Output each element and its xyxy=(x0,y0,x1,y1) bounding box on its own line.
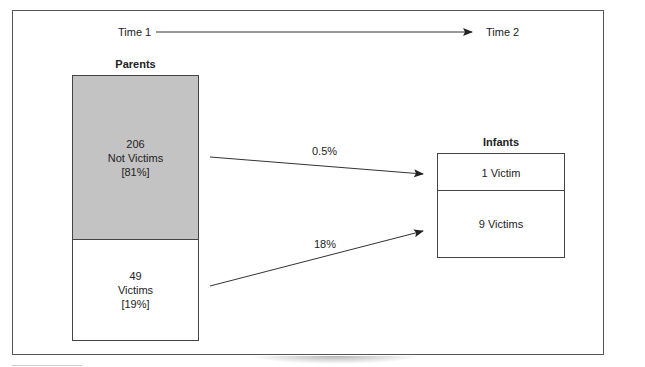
not-victims-count: 206 xyxy=(108,137,163,151)
flow-arrow-not-victims xyxy=(210,157,423,174)
one-victim-label: 1 Victim xyxy=(482,166,521,180)
victims-percent: [19%] xyxy=(118,297,153,311)
footnote-rule xyxy=(12,365,82,366)
not-victims-percent: [81%] xyxy=(108,165,163,179)
not-victims-label: Not Victims xyxy=(108,151,163,165)
page-shadow xyxy=(250,356,420,364)
flow-label-victims: 18% xyxy=(314,238,336,250)
time-1-label: Time 1 xyxy=(118,26,151,38)
parents-victims-segment: 49 Victims [19%] xyxy=(73,240,198,340)
flow-label-not-victims: 0.5% xyxy=(312,145,337,157)
parents-box: 206 Not Victims [81%] 49 Victims [19%] xyxy=(72,75,199,341)
victims-label: Victims xyxy=(118,283,153,297)
parents-not-victims-segment: 206 Not Victims [81%] xyxy=(73,76,198,240)
infants-victim-segment: 1 Victim xyxy=(438,154,564,191)
infants-box: 1 Victim 9 Victims xyxy=(437,153,565,258)
parents-title: Parents xyxy=(72,58,199,70)
infants-victims-segment: 9 Victims xyxy=(438,191,564,257)
time-2-label: Time 2 xyxy=(486,26,519,38)
nine-victims-label: 9 Victims xyxy=(479,217,523,231)
infants-title: Infants xyxy=(437,136,565,148)
victims-count: 49 xyxy=(118,269,153,283)
